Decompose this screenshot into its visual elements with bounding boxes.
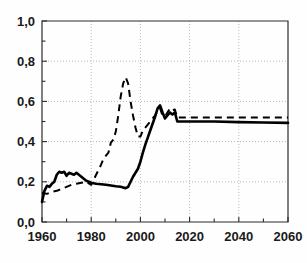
x-tick-label: 1960: [28, 229, 57, 244]
x-tick-label: 2040: [224, 229, 253, 244]
x-tick-label: 1980: [77, 229, 106, 244]
y-tick-label: 0,0: [17, 215, 35, 230]
x-tick-label: 2060: [274, 229, 303, 244]
series-line-solid-series: [42, 105, 288, 201]
y-tick-label: 0,8: [17, 54, 35, 69]
y-tick-label: 1,0: [17, 14, 35, 29]
x-tick-labels: 196019802000202020402060: [28, 229, 303, 244]
y-tick-label: 0,4: [17, 134, 36, 149]
y-tick-label: 0,6: [17, 94, 35, 109]
chart-container: 0,00,20,40,60,81,0 196019802000202020402…: [0, 0, 307, 263]
y-tick-labels: 0,00,20,40,60,81,0: [17, 14, 36, 230]
line-chart: 0,00,20,40,60,81,0 196019802000202020402…: [0, 0, 307, 263]
x-tick-label: 2020: [175, 229, 204, 244]
y-tick-label: 0,2: [17, 174, 35, 189]
x-tick-label: 2000: [126, 229, 155, 244]
series-group: [42, 77, 288, 202]
